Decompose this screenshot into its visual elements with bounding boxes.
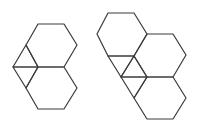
- hexagon-shape: [26, 24, 77, 67]
- triangle-shape: [108, 56, 134, 77]
- triangle-shape: [121, 77, 147, 98]
- right-hexagon-figure: [97, 13, 186, 119]
- triangle-shape: [13, 67, 38, 88]
- triangle-shape: [121, 56, 147, 77]
- triangle-shape: [13, 45, 38, 67]
- hexagon-shape: [26, 67, 77, 109]
- hexagon-diagram: [0, 0, 201, 127]
- left-hexagon-figure: [13, 24, 77, 109]
- hexagon-shape: [134, 34, 186, 77]
- hexagon-shape: [134, 77, 186, 119]
- hexagon-shape: [97, 13, 147, 56]
